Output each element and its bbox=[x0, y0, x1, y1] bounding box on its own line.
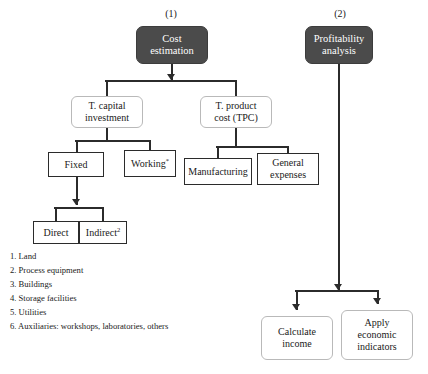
connector-split2-bar bbox=[75, 140, 151, 142]
connector-split1-right-drop bbox=[235, 80, 237, 96]
node-manufacturing-label-line: Manufacturing bbox=[188, 166, 247, 178]
node-total-capital-investment[interactable]: T. capitalinvestment bbox=[71, 96, 143, 128]
footnote-legend: 1. Land2. Process equipment3. Buildings4… bbox=[10, 250, 250, 334]
node-total-product-cost-label-line: T. product bbox=[214, 100, 258, 112]
flowchart-canvas: CostestimationProfitabilityanalysisT. ca… bbox=[0, 0, 428, 374]
connector-split3-bar bbox=[216, 146, 289, 148]
node-manufacturing[interactable]: Manufacturing bbox=[184, 158, 252, 185]
node-profitability-analysis-label: Profitabilityanalysis bbox=[314, 33, 365, 58]
node-general-expenses-label: Generalexpenses bbox=[270, 157, 306, 181]
node-working[interactable]: Working* bbox=[124, 150, 176, 177]
node-direct[interactable]: Direct bbox=[33, 221, 79, 244]
node-indirect-footnote-marker: 2 bbox=[117, 225, 120, 232]
node-cost-estimation-label-line: estimation bbox=[150, 45, 194, 57]
node-total-capital-investment-label-line: T. capital bbox=[85, 100, 129, 112]
arrowhead-to-calculate-income bbox=[292, 304, 300, 310]
node-direct-label: Direct bbox=[44, 227, 69, 239]
node-apply-economic-indicators-label-line: indicators bbox=[357, 341, 396, 353]
legend-item: 3. Buildings bbox=[10, 278, 250, 292]
legend-item: 5. Utilities bbox=[10, 306, 250, 320]
connector-profitability-down bbox=[338, 64, 340, 290]
node-profitability-analysis-label-line: analysis bbox=[314, 45, 365, 57]
node-indirect-label-line: Indirect2 bbox=[86, 227, 120, 239]
legend-item: 1. Land bbox=[10, 250, 250, 264]
node-profitability-analysis-label-line: Profitability bbox=[314, 33, 365, 45]
node-apply-economic-indicators-label-line: economic bbox=[357, 329, 396, 341]
connector-split4-bar bbox=[54, 207, 104, 209]
node-general-expenses[interactable]: Generalexpenses bbox=[257, 153, 319, 185]
node-cost-estimation-label-line: Cost bbox=[150, 33, 194, 45]
node-fixed-label: Fixed bbox=[65, 159, 88, 171]
node-apply-economic-indicators-label-line: Apply bbox=[357, 317, 396, 329]
node-profitability-analysis[interactable]: Profitabilityanalysis bbox=[305, 26, 373, 64]
node-working-label-line: Working* bbox=[131, 158, 169, 170]
node-general-expenses-label-line: General bbox=[270, 157, 306, 169]
node-total-product-cost-label: T. productcost (TPC) bbox=[214, 100, 258, 124]
node-calculate-income[interactable]: Calculateincome bbox=[261, 316, 333, 360]
node-fixed[interactable]: Fixed bbox=[48, 152, 104, 177]
connector-split5-bar bbox=[295, 290, 379, 292]
connector-split1-left-drop bbox=[106, 80, 108, 96]
node-apply-economic-indicators[interactable]: Applyeconomicindicators bbox=[341, 310, 413, 360]
node-cost-estimation-label: Costestimation bbox=[150, 33, 194, 58]
arrowhead-to-apply-indicators bbox=[373, 298, 381, 304]
group-label-1: (1) bbox=[141, 8, 201, 19]
node-calculate-income-label-line: Calculate bbox=[278, 326, 316, 338]
node-cost-estimation[interactable]: Costestimation bbox=[136, 26, 208, 64]
node-manufacturing-label: Manufacturing bbox=[188, 166, 247, 178]
node-direct-label-line: Direct bbox=[44, 227, 69, 239]
arrowhead-to-direct-split bbox=[72, 199, 80, 205]
arrowhead-to-profitability-split bbox=[334, 284, 342, 290]
group-label-2: (2) bbox=[310, 8, 370, 19]
node-calculate-income-label: Calculateincome bbox=[278, 326, 316, 350]
node-general-expenses-label-line: expenses bbox=[270, 169, 306, 181]
node-indirect-label: Indirect2 bbox=[86, 227, 120, 239]
node-apply-economic-indicators-label: Applyeconomicindicators bbox=[357, 317, 396, 352]
legend-item: 4. Storage facilities bbox=[10, 292, 250, 306]
node-working-footnote-marker: * bbox=[166, 156, 169, 163]
node-fixed-label-line: Fixed bbox=[65, 159, 88, 171]
node-total-capital-investment-label: T. capitalinvestment bbox=[85, 100, 129, 124]
node-total-capital-investment-label-line: investment bbox=[85, 112, 129, 124]
node-total-product-cost[interactable]: T. productcost (TPC) bbox=[200, 96, 272, 128]
legend-item: 6. Auxiliaries: workshops, laboratories,… bbox=[10, 320, 250, 334]
arrowhead-to-split1 bbox=[167, 74, 175, 80]
legend-item: 2. Process equipment bbox=[10, 264, 250, 278]
node-total-product-cost-label-line: cost (TPC) bbox=[214, 112, 258, 124]
node-indirect[interactable]: Indirect2 bbox=[79, 221, 127, 244]
node-calculate-income-label-line: income bbox=[278, 338, 316, 350]
node-working-label: Working* bbox=[131, 158, 169, 170]
connector-split1-bar bbox=[105, 80, 237, 82]
connector-product-cost-down bbox=[235, 128, 237, 148]
